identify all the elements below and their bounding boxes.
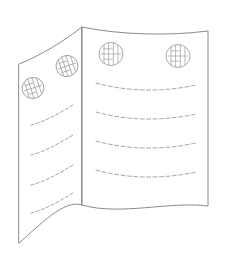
seal-icon <box>99 43 123 66</box>
seal-icon <box>166 45 190 68</box>
right-panel <box>82 27 208 209</box>
document-illustration <box>0 0 236 274</box>
figure-root <box>0 0 236 274</box>
